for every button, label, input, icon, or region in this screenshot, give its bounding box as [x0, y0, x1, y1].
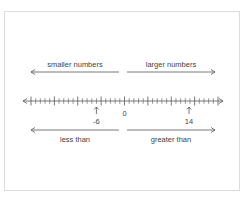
- number-line-ticks: [31, 97, 218, 106]
- number-line: [23, 99, 223, 104]
- greater-than-label: greater than: [151, 135, 191, 144]
- less-than-label: less than: [60, 135, 90, 144]
- marker-label-14: 14: [185, 117, 193, 126]
- number-line-diagram: smaller numbers larger numbers 0 -6 14 l…: [0, 0, 244, 197]
- larger-numbers-label: larger numbers: [146, 60, 197, 69]
- smaller-numbers-arrow: [31, 70, 119, 75]
- larger-numbers-arrow: [127, 70, 215, 75]
- smaller-numbers-label: smaller numbers: [47, 60, 103, 69]
- marker-minus-6: -6: [93, 107, 100, 126]
- marker-14: 14: [185, 107, 193, 126]
- marker-label-minus-6: -6: [93, 117, 100, 126]
- less-than-arrow: [31, 128, 119, 133]
- greater-than-arrow: [127, 128, 215, 133]
- zero-label: 0: [122, 109, 126, 118]
- up-arrow-icon: [94, 107, 98, 114]
- up-arrow-icon: [187, 107, 191, 114]
